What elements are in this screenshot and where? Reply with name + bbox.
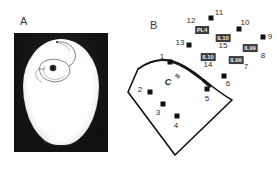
- electrode-contact-1[interactable]: [168, 60, 173, 65]
- figure-root: A B: [0, 0, 277, 174]
- contact-label-15: 15: [219, 42, 228, 50]
- contact-label-1: 1: [160, 53, 164, 61]
- contact-label-9: 9: [268, 33, 272, 41]
- sulcus-trace-mid: [170, 61, 204, 81]
- code-tag-il99-3: IL99: [243, 44, 258, 52]
- panel-b-schematic: B C 123456789101112131415 PL4IL10IL10IL9…: [126, 0, 277, 174]
- contact-label-8: 8: [261, 52, 265, 60]
- contact-label-7: 7: [244, 63, 248, 71]
- electrode-contact-5[interactable]: [205, 87, 210, 92]
- panel-a-radiograph: [14, 33, 108, 152]
- code-tag-il10-2: IL10: [201, 53, 216, 61]
- panel-a-letter: A: [20, 16, 28, 27]
- electrode-contact-3[interactable]: [161, 102, 166, 107]
- electrode-contact-6[interactable]: [222, 74, 227, 79]
- contact-label-12: 12: [187, 17, 196, 25]
- contact-label-13: 13: [176, 39, 185, 47]
- code-tag-il99-4: IL99: [229, 56, 244, 64]
- electrode-contact-4[interactable]: [175, 114, 180, 119]
- contact-label-2: 2: [138, 86, 142, 94]
- code-tag-il10-1: IL10: [216, 34, 231, 42]
- craniotomy-outline: [128, 60, 232, 155]
- contact-label-14: 14: [204, 61, 213, 69]
- xray-frame: [14, 33, 108, 152]
- electrode-contact-10[interactable]: [237, 27, 242, 32]
- implanted-electrode-array-icon: [14, 33, 108, 152]
- contact-label-11: 11: [215, 9, 223, 17]
- sulcus-trace-upper: [138, 60, 170, 69]
- contact-label-3: 3: [156, 109, 160, 117]
- electrode-contact-2[interactable]: [148, 90, 153, 95]
- sulcus-trace-lower: [204, 81, 210, 86]
- contact-label-6: 6: [226, 80, 230, 88]
- contact-label-4: 4: [174, 122, 178, 130]
- contact-label-10: 10: [241, 19, 250, 27]
- sulcus-label-c: C: [165, 78, 172, 87]
- contact-label-5: 5: [205, 95, 209, 103]
- electrode-contact-11[interactable]: [209, 16, 214, 21]
- electrode-contact-9[interactable]: [261, 35, 266, 40]
- code-tag-pl4-0: PL4: [195, 26, 209, 34]
- sulcus-midpoint-tick: [175, 73, 181, 79]
- electrode-contact-13[interactable]: [187, 43, 192, 48]
